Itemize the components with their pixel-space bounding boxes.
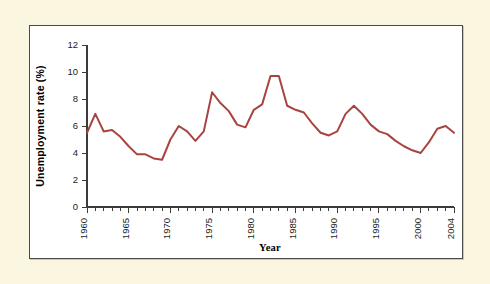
y-axis-title: Unemployment rate (%) <box>34 65 46 186</box>
y-tick-label: 10 <box>67 66 78 77</box>
chart-panel: 024681012 196019651970197519801985199019… <box>29 25 463 259</box>
x-tick-label: 2004 <box>445 218 456 239</box>
x-tick-label: 1965 <box>120 218 131 239</box>
x-axis-tick-labels: 1960196519701975198019851990199520002004 <box>78 218 456 239</box>
x-tick-label: 2000 <box>412 218 423 239</box>
y-tick-label: 2 <box>73 174 78 185</box>
y-tick-label: 8 <box>73 93 78 104</box>
x-axis-ticks <box>87 207 454 213</box>
x-tick-label: 1980 <box>245 218 256 239</box>
x-tick-label: 1970 <box>161 218 172 239</box>
x-tick-label: 1975 <box>203 218 214 239</box>
x-tick-label: 1960 <box>78 218 89 239</box>
x-axis-title: Year <box>259 242 281 253</box>
x-tick-label: 1995 <box>370 218 381 239</box>
figure-root: 024681012 196019651970197519801985199019… <box>0 0 490 284</box>
y-tick-label: 6 <box>73 120 78 131</box>
unemployment-rate-series <box>87 76 454 160</box>
y-tick-label: 4 <box>73 147 78 158</box>
unemployment-line-chart: 024681012 196019651970197519801985199019… <box>30 26 461 257</box>
y-tick-label: 0 <box>73 201 78 212</box>
y-axis-ticks <box>82 45 87 207</box>
y-axis-tick-labels: 024681012 <box>67 39 78 212</box>
x-tick-label: 1985 <box>287 218 298 239</box>
x-tick-label: 1990 <box>328 218 339 239</box>
y-tick-label: 12 <box>67 39 78 50</box>
